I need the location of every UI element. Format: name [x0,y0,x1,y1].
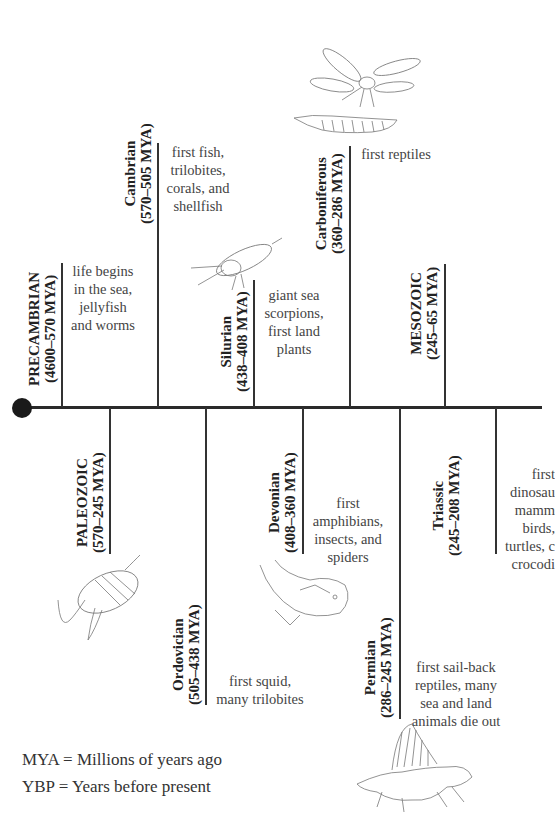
armored-fish-illustration [255,555,355,630]
trilobite-illustration [40,560,150,650]
label-precambrian: PRECAMBRIAN (4600–570 MYA) [26,272,58,386]
vline-paleozoic [109,408,111,554]
dragonfly-illustration [312,45,422,115]
millipede-illustration [292,108,402,138]
label-paleozoic: PALEOZOIC (570–245 MYA) [74,452,106,553]
vline-devonian [302,408,304,554]
vline-ordovician [205,408,207,705]
vline-cambrian [157,143,159,407]
legend-ybp: YBP = Years before present [22,777,211,797]
timeline-axis [22,406,542,409]
label-silurian: Silurian (438–408 MYA) [218,291,250,392]
vline-silurian [253,280,255,407]
label-cambrian: Cambrian (570–505 MYA) [122,123,154,224]
sea-scorpion-illustration [186,230,286,290]
label-mesozoic: MESOZOIC (245–65 MYA) [408,267,440,360]
desc-carboniferous: first reptiles [356,145,436,163]
desc-ordovician: first squid, many trilobites [208,672,312,708]
label-ordovician: Ordovician (505–438 MYA) [170,604,202,705]
desc-triassic: first dinosau mamm birds, turtles, c cro… [475,465,555,573]
label-permian: Permian (286–245 MYA) [362,617,394,718]
label-triassic: Triassic (245–208 MYA) [430,455,462,556]
label-carboniferous: Carboniferous (360–286 MYA) [313,153,345,254]
desc-cambrian: first fish, trilobites, corals, and shel… [160,143,236,215]
desc-silurian: giant sea scorpions, first land plants [258,286,330,358]
vline-mesozoic [444,264,446,407]
label-devonian: Devonian (408–360 MYA) [266,452,298,553]
dimetrodon-illustration [352,722,477,817]
timeline-start-dot [12,398,32,418]
vline-precambrian [61,263,63,407]
legend-mya: MYA = Millions of years ago [22,750,222,770]
desc-permian: first sail-back reptiles, many sea and l… [404,658,508,730]
vline-carboniferous [349,146,351,407]
vline-permian [399,408,401,719]
desc-precambrian: life begins in the sea, jellyfish and wo… [66,262,140,334]
